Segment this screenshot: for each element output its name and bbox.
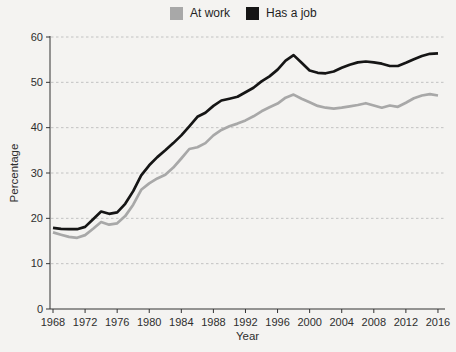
x-tick-label-2016: 2016 bbox=[426, 316, 450, 328]
y-tick-label-10: 10 bbox=[31, 257, 43, 269]
has-a-job-label: Has a job bbox=[266, 6, 317, 20]
chart-svg: 0102030405060196819721976198019841988199… bbox=[0, 0, 456, 352]
x-tick-label-2004: 2004 bbox=[329, 316, 353, 328]
legend: At work Has a job bbox=[170, 6, 317, 20]
y-tick-label-40: 40 bbox=[31, 121, 43, 133]
x-tick-label-2008: 2008 bbox=[362, 316, 386, 328]
x-tick-label-1980: 1980 bbox=[137, 316, 161, 328]
x-tick-label-2012: 2012 bbox=[394, 316, 418, 328]
has-a-job-line bbox=[53, 53, 438, 229]
x-tick-label-1992: 1992 bbox=[233, 316, 257, 328]
x-tick-label-1996: 1996 bbox=[265, 316, 289, 328]
chart-canvas: 0102030405060196819721976198019841988199… bbox=[0, 0, 456, 352]
x-tick-label-1968: 1968 bbox=[41, 316, 65, 328]
has-a-job-swatch bbox=[246, 7, 259, 20]
x-tick-label-1984: 1984 bbox=[169, 316, 193, 328]
at-work-label: At work bbox=[190, 6, 230, 20]
x-tick-label-1976: 1976 bbox=[105, 316, 129, 328]
y-tick-label-50: 50 bbox=[31, 76, 43, 88]
x-tick-label-1972: 1972 bbox=[73, 316, 97, 328]
legend-item-has-a-job: Has a job bbox=[246, 6, 317, 20]
y-tick-label-30: 30 bbox=[31, 167, 43, 179]
y-tick-label-20: 20 bbox=[31, 212, 43, 224]
at-work-swatch bbox=[170, 7, 183, 20]
y-axis-title: Percentage bbox=[8, 144, 20, 203]
x-tick-label-2000: 2000 bbox=[297, 316, 321, 328]
y-tick-label-0: 0 bbox=[37, 303, 43, 315]
y-tick-label-60: 60 bbox=[31, 31, 43, 43]
x-tick-label-1988: 1988 bbox=[201, 316, 225, 328]
at-work-line bbox=[53, 94, 438, 238]
x-axis-title: Year bbox=[50, 330, 445, 342]
legend-item-at-work: At work bbox=[170, 6, 230, 20]
